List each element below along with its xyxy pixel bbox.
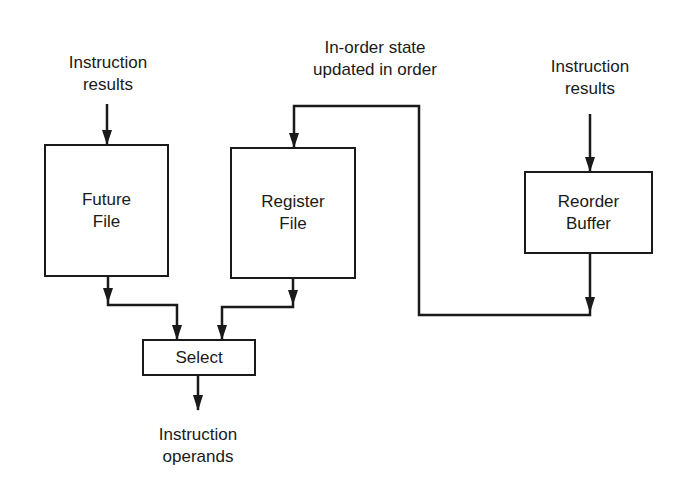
arrowhead-icon	[172, 325, 182, 340]
register-file-label: Register File	[261, 191, 324, 235]
caption-future-input: Instruction results	[69, 52, 147, 96]
caption-reorder-input: Instruction results	[551, 56, 629, 100]
select-box: Select	[142, 339, 256, 376]
caption-select-output: Instruction operands	[159, 424, 237, 468]
register-file-box: Register File	[230, 147, 356, 279]
arrowhead-icon	[289, 133, 299, 148]
arrowhead-icon	[193, 395, 203, 411]
caption-inorder-state: In-order state updated in order	[313, 37, 437, 81]
arrowhead-icon	[217, 325, 227, 340]
arrowhead-icon	[103, 288, 113, 303]
arrowhead-icon	[288, 290, 298, 305]
arrowhead-icon	[102, 130, 112, 145]
reorder-buffer-label: Reorder Buffer	[558, 191, 619, 235]
arrow-future-to-select	[108, 276, 177, 340]
select-label: Select	[175, 347, 222, 369]
arrow-register-to-select	[222, 278, 293, 340]
reorder-buffer-box: Reorder Buffer	[524, 171, 653, 254]
future-file-label: Future File	[82, 189, 131, 233]
arrowhead-icon	[585, 157, 595, 172]
arrowhead-icon	[585, 297, 595, 313]
future-file-box: Future File	[44, 144, 169, 277]
